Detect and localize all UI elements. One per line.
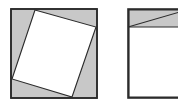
left-panel-tilted-inscribed-square [11,9,97,98]
geometry-diagram-svg [0,0,178,104]
figure-canvas [0,0,178,104]
right-panel-square-with-top-band [128,9,178,98]
